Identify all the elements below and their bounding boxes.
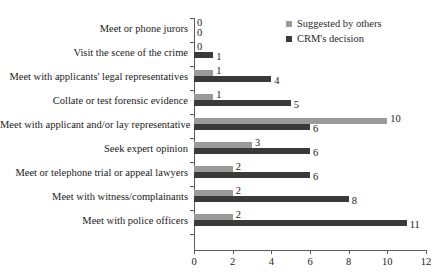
x-axis-tick <box>233 250 234 254</box>
bar-crm <box>194 100 291 106</box>
bar-crm <box>194 76 271 82</box>
bar-value-label: 3 <box>255 138 260 148</box>
bar-value-label: 4 <box>274 76 279 86</box>
category-tick <box>190 234 194 235</box>
x-axis-tick <box>349 250 350 254</box>
bar-chart: Suggested by others CRM's decision 02468… <box>0 0 444 277</box>
bar-value-label: 0 <box>197 28 202 38</box>
bar-value-label: 5 <box>294 100 299 110</box>
x-axis-tick-label: 12 <box>421 256 432 267</box>
x-axis-tick-label: 6 <box>307 256 312 267</box>
category-label: Meet with applicants' legal representati… <box>0 71 192 83</box>
bar-value-label: 6 <box>313 172 318 182</box>
bar-row: 00 <box>194 18 426 42</box>
bar-row: 106 <box>194 114 426 138</box>
bar-value-label: 2 <box>236 210 241 220</box>
bar-row: 01 <box>194 42 426 66</box>
category-label: Seek expert opinion <box>0 143 192 155</box>
bar-row: 15 <box>194 90 426 114</box>
bar-crm <box>194 220 407 226</box>
x-axis-tick-label: 8 <box>346 256 351 267</box>
category-label: Collate or test forensic evidence <box>0 95 192 107</box>
bar-row: 26 <box>194 162 426 186</box>
bar-row: 36 <box>194 138 426 162</box>
x-axis-tick <box>426 250 427 254</box>
x-axis-tick <box>194 250 195 254</box>
bar-value-label: 1 <box>216 90 221 100</box>
bar-row: 28 <box>194 186 426 210</box>
bar-crm <box>194 52 213 58</box>
category-label: Meet with applicant and/or lay represent… <box>0 119 192 131</box>
bar-crm <box>194 124 310 130</box>
category-label: Meet with police officers <box>0 215 192 227</box>
bar-crm <box>194 148 310 154</box>
bar-value-label: 10 <box>390 114 401 124</box>
bar-row: 14 <box>194 66 426 90</box>
x-axis-tick <box>310 250 311 254</box>
category-label: Meet or telephone trial or appeal lawyer… <box>0 167 192 179</box>
bar-value-label: 6 <box>313 124 318 134</box>
category-label: Visit the scene of the crime <box>0 47 192 59</box>
bar-value-label: 6 <box>313 148 318 158</box>
bar-value-label: 11 <box>410 220 420 230</box>
bar-value-label: 0 <box>197 42 202 52</box>
bar-row: 211 <box>194 210 426 234</box>
category-label: Meet with witness/complainants <box>0 191 192 203</box>
bar-value-label: 1 <box>216 52 221 62</box>
plot-area: 024681012 00011415106362628211 <box>194 18 426 250</box>
bar-crm <box>194 196 349 202</box>
bar-crm <box>194 172 310 178</box>
bar-value-label: 2 <box>236 162 241 172</box>
category-label: Meet or phone jurors <box>0 23 192 35</box>
bar-value-label: 1 <box>216 66 221 76</box>
x-axis-tick-label: 10 <box>382 256 393 267</box>
x-axis-tick <box>271 250 272 254</box>
x-axis-tick-label: 2 <box>230 256 235 267</box>
bar-value-label: 8 <box>352 196 357 206</box>
x-axis-tick <box>387 250 388 254</box>
x-axis-tick-label: 4 <box>269 256 274 267</box>
bar-value-label: 2 <box>236 186 241 196</box>
x-axis-tick-label: 0 <box>191 256 196 267</box>
